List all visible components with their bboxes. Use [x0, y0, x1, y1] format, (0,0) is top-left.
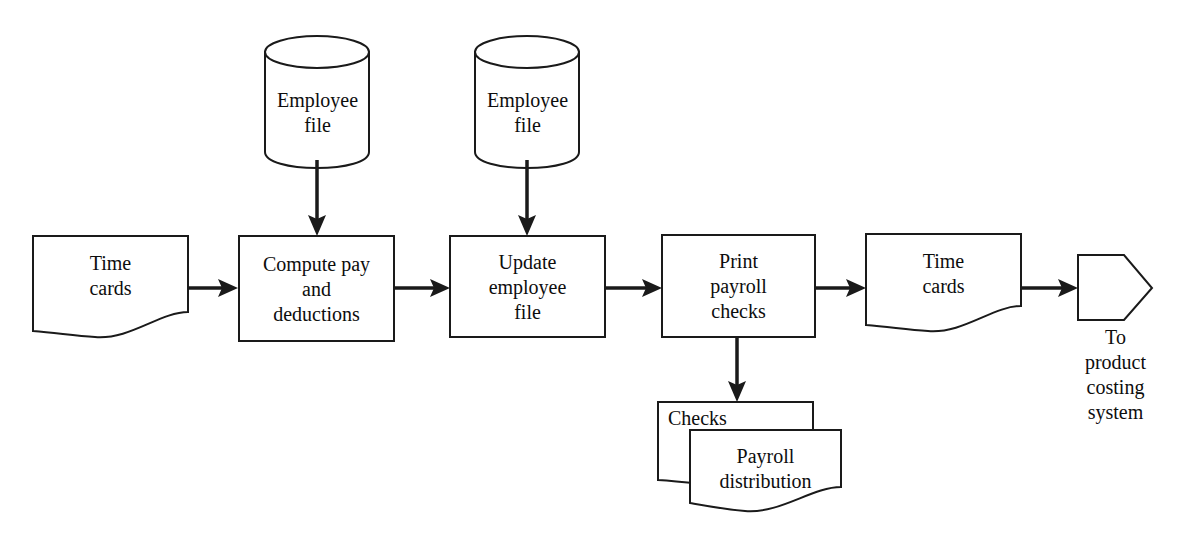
shape-time-cards-output[interactable] — [866, 234, 1021, 331]
conn-print-to-timecards — [815, 279, 866, 297]
shape-employee-file-1[interactable] — [265, 36, 369, 168]
conn-update-to-print — [605, 279, 662, 297]
shape-time-cards-input[interactable] — [33, 236, 188, 337]
conn-timecards-to-connector — [1021, 279, 1078, 297]
conn-timecards-to-compute — [188, 279, 238, 297]
shape-update-employee-file[interactable] — [450, 236, 605, 337]
shape-compute-pay[interactable] — [239, 236, 394, 341]
conn-print-to-checks — [728, 337, 746, 402]
shape-print-payroll-checks[interactable] — [662, 235, 815, 337]
conn-compute-to-update — [394, 279, 450, 297]
flowchart-graphics — [0, 0, 1186, 554]
shape-payroll-distribution[interactable] — [690, 430, 841, 511]
conn-empfile2-to-update — [518, 160, 536, 236]
flowchart-canvas: Time cards Employee file Compute pay and… — [0, 0, 1186, 554]
shape-employee-file-2[interactable] — [475, 36, 579, 168]
conn-empfile1-to-compute — [308, 160, 326, 236]
shape-to-product-costing[interactable] — [1078, 255, 1152, 320]
